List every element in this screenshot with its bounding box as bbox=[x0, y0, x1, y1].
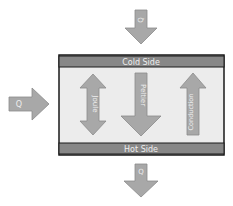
heat-out-bottom-arrow: Q bbox=[124, 164, 158, 197]
cold-side-label: Cold Side bbox=[122, 58, 160, 67]
heat-in-left-label: Q bbox=[16, 100, 22, 109]
heat-in-top-arrow: Q bbox=[125, 10, 157, 44]
heat-out-bottom-label: Q bbox=[138, 168, 144, 176]
conduction-label: Conduction bbox=[187, 94, 195, 131]
peltier-label: Peltier bbox=[139, 84, 147, 106]
joule-label: Joule bbox=[91, 94, 99, 112]
heat-in-top-label: Q bbox=[137, 17, 145, 23]
hot-side-label: Hot Side bbox=[124, 145, 158, 154]
diagram-canvas: Q Q Cold Side Hot Side Joule Peltier Con… bbox=[0, 0, 233, 206]
cold-side-bar: Cold Side bbox=[59, 56, 224, 67]
hot-side-bar: Hot Side bbox=[59, 143, 224, 154]
heat-in-left-arrow: Q bbox=[9, 88, 49, 120]
